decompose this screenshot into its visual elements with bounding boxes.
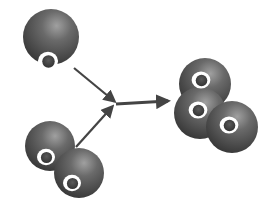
arrow-to-product xyxy=(116,101,168,104)
triatomic-molecule xyxy=(174,58,258,153)
atom-hole xyxy=(41,152,52,163)
atom-hole xyxy=(42,55,54,67)
single-atom xyxy=(23,9,79,70)
atom-hole xyxy=(224,120,236,132)
atom-sphere xyxy=(54,148,104,198)
arrow-from-single xyxy=(74,68,114,101)
atom-hole xyxy=(196,75,208,87)
reaction-diagram-canvas xyxy=(0,0,269,218)
reactants xyxy=(23,9,104,198)
arrow-from-diatomic xyxy=(76,107,112,147)
diatomic-molecule xyxy=(25,121,104,198)
reaction-diagram xyxy=(0,0,269,218)
atom-hole xyxy=(67,178,78,189)
arrows xyxy=(74,68,168,147)
atom-hole xyxy=(193,105,205,117)
product xyxy=(174,58,258,153)
